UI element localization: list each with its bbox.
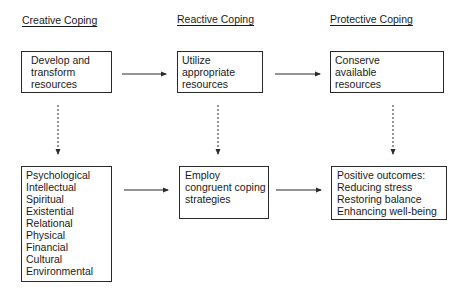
connector-arrows: [0, 0, 463, 296]
